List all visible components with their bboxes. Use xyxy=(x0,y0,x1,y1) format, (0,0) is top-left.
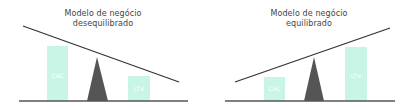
unbalanced-seesaw-diagram: CAC LTV xyxy=(0,0,206,110)
ltv-bar-label: LTV xyxy=(351,72,362,79)
cac-bar-label: CAC xyxy=(268,85,280,92)
ltv-bar-label: LTV xyxy=(134,85,145,92)
fulcrum-triangle xyxy=(304,57,324,101)
balanced-model-panel: Modelo de negócio equilibrado CAC LTV xyxy=(206,0,412,110)
fulcrum-triangle xyxy=(87,57,108,101)
cac-bar-label: CAC xyxy=(51,72,63,79)
unbalanced-model-panel: Modelo de negócio desequilibrado CAC LTV xyxy=(0,0,206,110)
balanced-seesaw-diagram: CAC LTV xyxy=(206,0,412,110)
